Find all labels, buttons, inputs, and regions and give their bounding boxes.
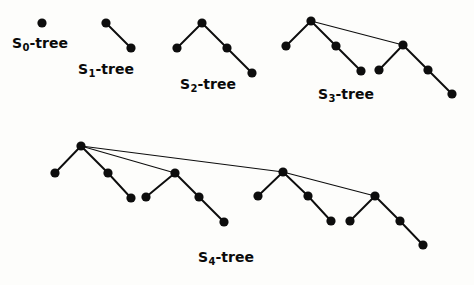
tree-edge [375,196,400,221]
tree-edge [379,45,403,70]
label-subscript: 0 [23,42,30,53]
tree-edge [81,146,283,172]
label-prefix: S [12,35,23,51]
edge-group [55,146,423,245]
tree-label-s4: S4-tree [198,250,254,267]
tree-node [247,68,256,77]
tree-node [103,168,112,177]
tree-node [172,43,181,52]
tree-node [303,191,312,200]
tree-diagram-canvas [0,0,474,285]
tree-node [50,168,59,177]
tree-node [418,240,427,249]
tree-node [194,192,203,201]
label-suffix: -tree [198,76,236,92]
tree-edge [108,173,131,198]
tree-s1-tree [101,18,135,52]
label-subscript: 3 [329,93,336,104]
tree-edge [202,23,227,48]
sk-tree-figure: S0-treeS1-treeS2-treeS3-treeS4-tree [0,0,474,285]
tree-edge [336,46,361,71]
tree-edge [55,146,81,173]
tree-node [197,18,206,27]
tree-node [141,192,150,201]
tree-node [253,191,262,200]
label-suffix: -tree [216,249,254,265]
tree-edge [227,48,252,73]
tree-node [398,40,407,49]
tree-node [374,65,383,74]
tree-edge [146,173,175,197]
tree-edge [258,172,283,196]
tree-node [126,43,135,52]
tree-node [306,16,315,25]
tree-node [219,217,228,226]
tree-label-s2: S2-tree [180,77,236,94]
node-group [37,18,46,27]
tree-edge [311,21,403,45]
node-group [172,18,256,77]
tree-label-s0: S0-tree [12,36,68,53]
edge-group [286,21,452,94]
tree-node [326,216,335,225]
node-group [50,141,427,249]
label-subscript: 2 [191,83,198,94]
tree-s2-tree [172,18,256,77]
edge-group [177,23,252,73]
tree-edge [177,23,202,48]
tree-s0-tree [37,18,46,27]
tree-node [395,216,404,225]
tree-node [423,65,432,74]
tree-node [281,41,290,50]
tree-node [101,18,110,27]
tree-node [37,18,46,27]
tree-edge [428,70,452,94]
tree-edge [403,45,428,70]
tree-node [345,216,354,225]
tree-node [222,43,231,52]
tree-edge [199,197,224,222]
tree-edge [350,196,375,221]
label-subscript: 4 [209,256,216,267]
label-prefix: S [198,249,209,265]
tree-node [76,141,85,150]
tree-edge [400,221,423,245]
label-prefix: S [180,76,191,92]
tree-node [170,168,179,177]
label-subscript: 1 [89,68,96,79]
tree-node [356,66,365,75]
tree-node [126,193,135,202]
tree-node [370,191,379,200]
tree-s4-tree [50,141,427,249]
label-suffix: -tree [96,61,134,77]
tree-label-s3: S3-tree [318,87,374,104]
label-suffix: -tree [30,35,68,51]
tree-node [447,89,456,98]
label-prefix: S [318,86,329,102]
tree-label-s1: S1-tree [78,62,134,79]
tree-node [331,41,340,50]
edge-group [106,23,131,48]
tree-edge [286,21,311,46]
tree-edge [308,196,331,221]
tree-edge [106,23,131,48]
label-suffix: -tree [336,86,374,102]
label-prefix: S [78,61,89,77]
tree-node [278,167,287,176]
tree-edge [175,173,199,197]
